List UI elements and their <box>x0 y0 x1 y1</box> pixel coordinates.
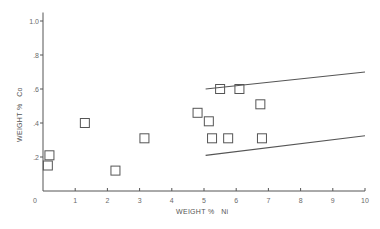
x-tick-label: 5 <box>202 197 206 204</box>
y-axis-ticks: .2.4.6.81.0 <box>29 18 43 161</box>
x-axis-ticks: 12345678910 <box>73 188 369 204</box>
x-tick-label: 6 <box>234 197 238 204</box>
x-tick-label: 4 <box>170 197 174 204</box>
x-tick-label: 10 <box>361 197 369 204</box>
data-points <box>43 85 266 176</box>
origin-label: 0 <box>33 197 37 204</box>
y-tick-label: 1.0 <box>29 18 39 25</box>
x-axis-label: WEIGHT % Ni <box>176 208 229 215</box>
data-point-square <box>256 100 265 109</box>
axes <box>43 13 365 192</box>
x-tick-label: 7 <box>266 197 270 204</box>
data-point-square <box>224 134 233 143</box>
x-tick-label: 2 <box>105 197 109 204</box>
data-point-square <box>257 134 266 143</box>
data-point-square <box>45 151 54 160</box>
y-tick-label: .8 <box>33 52 39 59</box>
lower-bound-line <box>206 136 365 156</box>
x-tick-label: 9 <box>331 197 335 204</box>
scatter-chart: 12345678910 .2.4.6.81.0 0 WEIGHT % Ni WE… <box>0 0 380 229</box>
y-tick-label: .4 <box>33 120 39 127</box>
data-point-square <box>193 108 202 117</box>
x-tick-label: 3 <box>138 197 142 204</box>
data-point-square <box>204 117 213 126</box>
data-point-square <box>208 134 217 143</box>
data-point-square <box>80 119 89 128</box>
x-tick-label: 1 <box>73 197 77 204</box>
y-tick-label: .6 <box>33 86 39 93</box>
data-point-square <box>43 161 52 170</box>
data-point-square <box>216 85 225 94</box>
upper-bound-line <box>206 72 365 89</box>
data-point-square <box>140 134 149 143</box>
y-tick-label: .2 <box>33 154 39 161</box>
x-tick-label: 8 <box>299 197 303 204</box>
y-axis-label: WEIGHT % Co <box>16 87 23 142</box>
data-point-square <box>111 166 120 175</box>
